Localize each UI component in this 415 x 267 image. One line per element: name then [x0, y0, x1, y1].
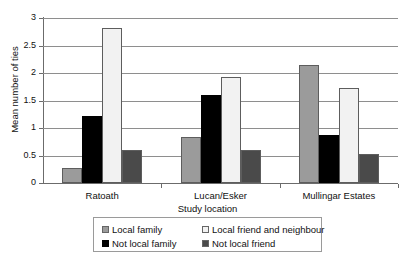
x-axis-tick [280, 184, 281, 188]
x-axis-category-label: Mullingar Estates [280, 190, 398, 201]
x-axis-tick [161, 184, 162, 188]
y-axis-tick [39, 18, 43, 19]
bar [319, 135, 339, 183]
x-axis-category-label: Ratoath [43, 190, 161, 201]
y-axis-tick [39, 101, 43, 102]
gridline [43, 183, 398, 184]
bar [102, 28, 122, 183]
plot-area [43, 18, 398, 183]
y-axis-tick-label: 0 [2, 178, 36, 187]
bar [221, 77, 241, 183]
chart-legend: Local familyLocal friend and neighbourNo… [93, 217, 322, 252]
legend-label: Not local friend [212, 238, 275, 249]
legend-label: Local family [112, 224, 162, 235]
bar [339, 88, 359, 183]
y-axis-tick [39, 156, 43, 157]
legend-item: Not local friend [202, 238, 275, 249]
y-axis-title: Mean number of ties [9, 25, 20, 155]
bar [299, 65, 319, 183]
y-axis-tick [39, 73, 43, 74]
legend-swatch-icon [202, 226, 209, 233]
x-axis-title: Study location [0, 203, 415, 214]
x-axis-category-label: Lucan/Esker [161, 190, 279, 201]
bar [201, 95, 221, 183]
legend-label: Not local family [112, 238, 176, 249]
legend-item: Local friend and neighbour [202, 224, 325, 235]
y-axis-tick [39, 183, 43, 184]
bar [82, 116, 102, 183]
legend-label: Local friend and neighbour [212, 224, 325, 235]
y-axis-tick [39, 46, 43, 47]
y-axis-tick [39, 128, 43, 129]
bar-group [299, 18, 379, 183]
bar-group [181, 18, 261, 183]
bar-chart-figure: 00.511.522.53 RatoathLucan/EskerMullinga… [0, 0, 415, 267]
legend-item: Local family [102, 224, 162, 235]
bar [359, 154, 379, 183]
x-axis-tick [398, 184, 399, 188]
legend-swatch-icon [202, 240, 209, 247]
bar-group [62, 18, 142, 183]
bar [62, 168, 82, 183]
legend-item: Not local family [102, 238, 176, 249]
bar [122, 150, 142, 183]
legend-swatch-icon [102, 226, 109, 233]
y-axis-tick-label: 3 [2, 13, 36, 22]
bar [181, 137, 201, 183]
bar [241, 150, 261, 183]
legend-swatch-icon [102, 240, 109, 247]
